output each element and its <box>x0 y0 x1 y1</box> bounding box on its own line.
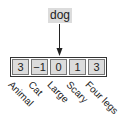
vector-cell: 3 <box>12 59 29 75</box>
vector-cell: 3 <box>88 59 105 75</box>
vector-cell: 1 <box>69 59 86 75</box>
vector-cell: −1 <box>31 59 48 75</box>
vector-cell: 0 <box>50 59 67 75</box>
embedding-vector: 3 −1 0 1 3 <box>10 57 107 77</box>
